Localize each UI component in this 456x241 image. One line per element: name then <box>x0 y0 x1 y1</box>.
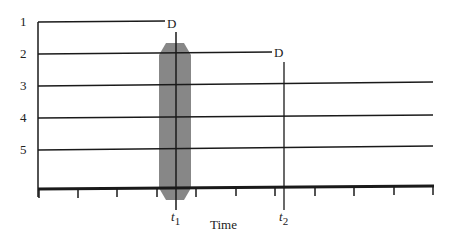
row-label-4: 4 <box>20 111 27 124</box>
row-4-line <box>38 115 433 118</box>
row-label-1: 1 <box>20 15 27 28</box>
row-label-2: 2 <box>20 47 27 60</box>
row-3-line <box>38 82 433 86</box>
x-axis-label: Time <box>210 218 237 231</box>
row-2-end-marker: D <box>274 46 283 59</box>
row-2-line <box>38 52 272 54</box>
row-1-end-marker: D <box>167 17 176 30</box>
row-label-3: 3 <box>20 79 27 92</box>
timeline-diagram <box>0 0 456 241</box>
row-label-5: 5 <box>20 143 27 156</box>
t1-label: t1 <box>171 210 180 227</box>
row-5-line <box>38 146 433 150</box>
row-1-line <box>38 21 165 22</box>
t2-label: t2 <box>279 210 288 227</box>
highlight-band-t1 <box>159 43 191 200</box>
